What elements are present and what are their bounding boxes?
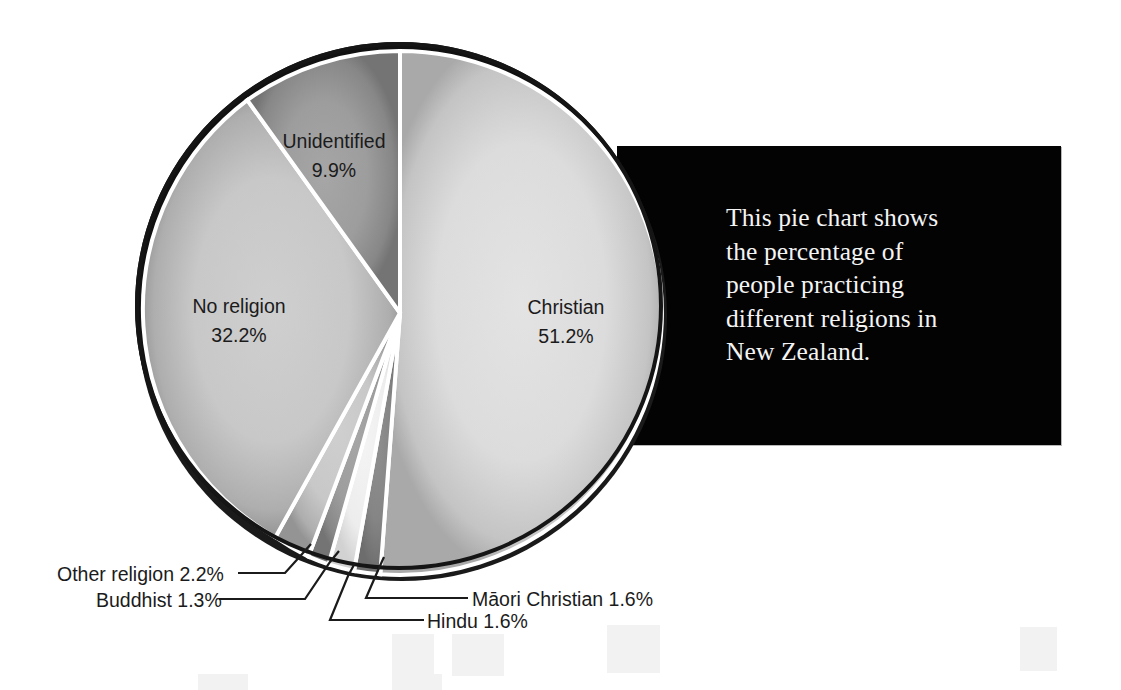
leader-line-buddhist [219, 551, 339, 599]
pie-label-christian: Christian 51.2% [495, 293, 637, 351]
pie-label-unidentified: Unidentified 9.9% [258, 127, 410, 185]
callout-label-hindu: Hindu 1.6% [427, 610, 528, 633]
chart-canvas: This pie chart shows the percentage of p… [0, 0, 1121, 690]
callout-label-buddhist: Buddhist 1.3% [96, 589, 222, 612]
callout-label-maori-christian: Māori Christian 1.6% [472, 588, 653, 611]
callout-label-other-religion: Other religion 2.2% [57, 563, 224, 586]
leader-line-other-religion [238, 544, 311, 573]
leader-line-maori-christian [366, 557, 468, 598]
pie-label-no-religion: No religion 32.2% [160, 292, 318, 350]
